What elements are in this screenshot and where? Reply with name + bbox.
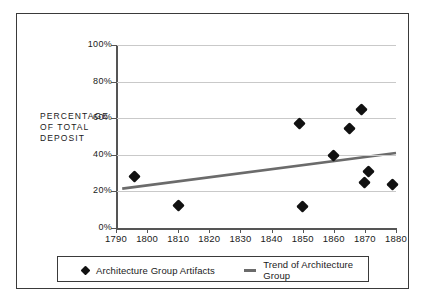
diamond-marker-icon (81, 265, 91, 275)
y-axis-tick-label: 20% (72, 186, 112, 195)
gridline-y (116, 191, 396, 192)
trend-line-series (116, 45, 396, 228)
legend-label-artifacts: Architecture Group Artifacts (96, 265, 215, 276)
y-axis-tick-label: 100% (72, 40, 112, 49)
x-axis-tick-labels: 1790180018101820183018401850186018701880 (116, 233, 406, 247)
y-axis-tick (111, 82, 117, 83)
trend-line (122, 153, 396, 189)
y-axis-tick-label: 0% (72, 223, 112, 232)
gridline-y (116, 82, 396, 83)
y-axis-tick (111, 191, 117, 192)
line-marker-icon (244, 269, 256, 272)
y-axis-tick-label: 60% (72, 113, 112, 122)
y-axis-tick-label: 40% (72, 150, 112, 159)
x-axis-line (116, 228, 397, 230)
legend-item-trend: Trend of Architecture Group (244, 257, 368, 283)
legend-label-trend: Trend of Architecture Group (263, 259, 368, 281)
y-axis-tick-label: 80% (72, 77, 112, 86)
y-axis-tick-labels: 0%20%40%60%80%100% (68, 45, 112, 229)
x-axis-tick-label: 1880 (376, 233, 416, 244)
chart-figure: PERCENTAGE OF TOTAL DEPOSIT 0%20%40%60%8… (16, 13, 409, 289)
y-axis-tick (111, 118, 117, 119)
chart-legend: Architecture Group Artifacts Trend of Ar… (57, 256, 369, 282)
gridline-y (116, 45, 396, 46)
y-axis-tick (111, 155, 117, 156)
gridline-y (116, 155, 396, 156)
legend-item-artifacts: Architecture Group Artifacts (82, 257, 215, 283)
y-axis-tick (111, 45, 117, 46)
gridline-y (116, 118, 396, 119)
plot-area (116, 45, 396, 228)
